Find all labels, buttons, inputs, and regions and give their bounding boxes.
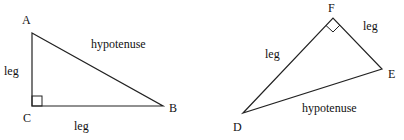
right-angle-marker-c [32,96,42,106]
side-label-ac: leg [4,64,19,78]
triangle-def-shape [243,18,382,113]
vertex-label-e: E [388,67,395,81]
vertex-label-c: C [23,111,31,125]
side-label-ab: hypotenuse [91,37,146,51]
side-label-de: hypotenuse [302,101,357,115]
side-label-fe: leg [363,19,378,33]
vertex-label-f: F [328,1,335,15]
side-label-df: leg [265,47,280,61]
triangle-def: F E D leg leg hypotenuse [233,1,395,134]
vertex-label-a: A [22,13,31,27]
side-label-cb: leg [74,119,89,133]
triangle-abc: A C B leg leg hypotenuse [4,13,177,133]
right-triangles-diagram: A C B leg leg hypotenuse F E D leg leg h… [0,0,404,140]
vertex-label-b: B [169,101,177,115]
vertex-label-d: D [233,120,242,134]
right-angle-marker-f [326,25,340,32]
